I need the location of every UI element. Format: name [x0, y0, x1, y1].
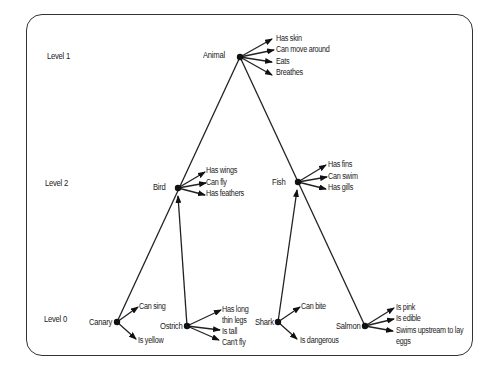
node-label-animal: Animal	[203, 50, 225, 60]
property-label: thin legs	[222, 315, 247, 325]
property-label: Can swim	[328, 171, 358, 181]
node-label-canary: Canary	[89, 317, 112, 327]
property-label: Can bite	[301, 301, 326, 311]
node-dot-shark	[275, 319, 281, 325]
property-label: Has wings	[206, 165, 237, 175]
level-label-1: Level 1	[47, 51, 70, 61]
node-label-salmon: Salmon	[336, 321, 360, 331]
level-label-2: Level 2	[45, 178, 68, 188]
semantic-network-diagram	[0, 0, 497, 376]
property-label: Swims upstream to lay	[396, 325, 463, 335]
node-label-ostrich: Ostrich	[160, 321, 182, 331]
property-label: Has long	[222, 304, 248, 314]
property-label: Is pink	[396, 302, 415, 312]
property-label: Is dangerous	[300, 335, 339, 345]
node-label-shark: Shark	[255, 317, 274, 327]
node-label-bird: Bird	[153, 182, 166, 192]
edge-shark-fish	[278, 190, 297, 322]
property-label: Can move around	[276, 44, 330, 54]
node-label-fish: Fish	[272, 177, 285, 187]
property-label: Has skin	[276, 33, 302, 43]
property-label: Has fins	[328, 159, 352, 169]
node-dot-ostrich	[184, 323, 190, 329]
level-label-0: Level 0	[44, 314, 67, 324]
property-label: Can fly	[206, 177, 227, 187]
property-label: Is tall	[222, 326, 237, 336]
property-label: Can't fly	[222, 337, 246, 347]
property-label: Eats	[276, 56, 289, 66]
property-label: Can sing	[139, 301, 165, 311]
node-dot-bird	[175, 185, 181, 191]
property-label: Breathes	[276, 67, 303, 77]
property-label: Has feathers	[206, 188, 244, 198]
property-label: eggs	[396, 336, 411, 346]
edge-ostrich-bird	[178, 196, 187, 326]
node-dot-canary	[114, 319, 120, 325]
node-dot-salmon	[362, 323, 368, 329]
property-label: Is edible	[396, 313, 421, 323]
property-label: Is yellow	[138, 335, 163, 345]
property-label: Has gills	[328, 182, 353, 192]
node-dot-animal	[237, 54, 243, 60]
node-dot-fish	[295, 179, 301, 185]
